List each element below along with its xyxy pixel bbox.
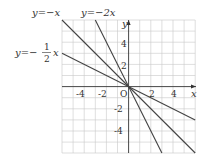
svg-text:y=−2x: y=−2x [80,7,116,18]
svg-text:y=−: y=− [14,47,37,58]
svg-text:x: x [53,47,59,58]
label-y-neg-half-x: y=− 1 2 x [14,42,59,64]
x-axis-label: x [191,88,197,99]
label-y-neg-x: y=−x [31,7,60,18]
origin-label: O [120,89,127,99]
y-tick-2: 2 [121,61,127,71]
coordinate-plane: x y O -4 -2 2 4 4 2 -2 -4 y=−x y=−2x y=−… [0,0,210,163]
x-tick-4: 4 [171,89,177,99]
y-tick-neg4: -4 [114,126,123,136]
svg-text:2: 2 [44,54,50,64]
svg-text:y=−x: y=−x [31,7,60,18]
label-y-neg-2x: y=−2x [80,7,116,18]
svg-text:1: 1 [44,42,50,52]
y-axis-label: y [121,18,128,29]
x-tick-neg2: -2 [98,89,107,99]
x-tick-2: 2 [149,89,155,99]
y-tick-neg2: -2 [114,104,123,114]
y-tick-4: 4 [121,39,127,49]
x-tick-neg4: -4 [76,89,85,99]
